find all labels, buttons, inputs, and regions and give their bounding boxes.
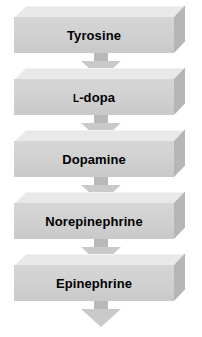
arrow-epinephrine-outflow [81, 301, 121, 327]
arrow-head-icon [81, 309, 121, 327]
step-label-dopamine: Dopamine [62, 153, 126, 166]
pathway-step-norepinephrine: Norepinephrine [14, 203, 174, 239]
pathway-step-dopamine: Dopamine [14, 141, 174, 177]
box-front-face: Norepinephrine [14, 203, 174, 239]
pathway-step-tyrosine: Tyrosine [14, 17, 174, 53]
step-label-rest: -dopa [79, 90, 115, 105]
step-label-l-dopa: L-dopa [73, 91, 115, 104]
box-front-face: Epinephrine [14, 265, 174, 301]
box-front-face: Dopamine [14, 141, 174, 177]
box-front-face: Tyrosine [14, 17, 174, 53]
step-label-epinephrine: Epinephrine [56, 277, 132, 290]
step-label-tyrosine: Tyrosine [67, 29, 121, 42]
pathway-diagram: Tyrosine L-dopa Dopamine Norepin [0, 0, 202, 337]
pathway-step-l-dopa: L-dopa [14, 79, 174, 115]
step-label-norepinephrine: Norepinephrine [45, 215, 142, 228]
pathway-step-epinephrine: Epinephrine [14, 265, 174, 301]
box-front-face: L-dopa [14, 79, 174, 115]
